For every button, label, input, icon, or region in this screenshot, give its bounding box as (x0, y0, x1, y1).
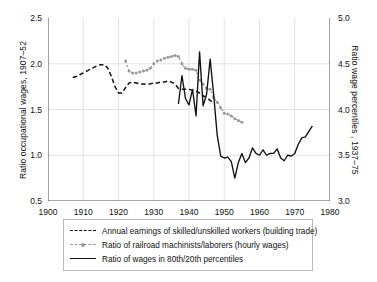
y-tick-right-4.5: 4.5 (338, 59, 362, 69)
series-marker (159, 59, 162, 62)
series-marker (156, 60, 159, 63)
series-marker (233, 117, 236, 120)
series-line-2 (178, 52, 312, 178)
y-tick-left-2.0: 2.0 (18, 59, 42, 69)
series-marker (191, 68, 194, 71)
y-tick-right-3.5: 3.5 (338, 150, 362, 160)
x-tick-1920: 1920 (104, 207, 134, 217)
y-tick-left-2.5: 2.5 (18, 13, 42, 23)
legend-label-2: Ratio of wages in 80th/20th percentiles (102, 255, 243, 264)
series-marker (131, 71, 134, 74)
series-marker (240, 121, 243, 124)
series-marker (209, 88, 212, 91)
series-marker (138, 70, 141, 73)
series-marker (135, 71, 138, 74)
series-marker (219, 106, 222, 109)
y-tick-right-4.0: 4.0 (338, 105, 362, 115)
y-tick-left-1.5: 1.5 (18, 105, 42, 115)
plot-area (48, 18, 330, 201)
legend-label-1: Ratio of railroad machinists/laborers (h… (102, 241, 289, 250)
y-tick-right-5.0: 5.0 (338, 13, 362, 23)
x-tick-1930: 1930 (139, 207, 169, 217)
series-marker (230, 114, 233, 117)
y-tick-right-3.0: 3.0 (338, 196, 362, 206)
x-tick-1970: 1970 (280, 207, 310, 217)
series-marker (128, 70, 131, 73)
series-marker (170, 55, 173, 58)
legend-item-0[interactable]: Annual earnings of skilled/unskilled wor… (70, 224, 306, 238)
series-marker (173, 54, 176, 57)
x-tick-1910: 1910 (68, 207, 98, 217)
series-marker (237, 119, 240, 122)
x-tick-1960: 1960 (245, 207, 275, 217)
series-marker (152, 62, 155, 65)
series-marker (216, 101, 219, 104)
x-tick-1980: 1980 (315, 207, 345, 217)
series-marker (145, 69, 148, 72)
series-marker (149, 67, 152, 70)
series-marker (180, 62, 183, 65)
series-marker (223, 112, 226, 115)
series-marker (195, 69, 198, 72)
y-tick-left-0.5: 0.5 (18, 196, 42, 206)
y-tick-left-1.0: 1.0 (18, 150, 42, 160)
chart-figure: Ratio occupational wages, 1907–52 Ratio … (0, 0, 377, 282)
series-marker (188, 68, 191, 71)
x-tick-1950: 1950 (209, 207, 239, 217)
series-marker (226, 113, 229, 116)
legend-item-1[interactable]: Ratio of railroad machinists/laborers (h… (70, 238, 306, 252)
series-marker (177, 55, 180, 58)
legend-label-0: Annual earnings of skilled/unskilled wor… (102, 227, 317, 236)
chart-legend: Annual earnings of skilled/unskilled wor… (63, 219, 313, 271)
chart-svg (48, 18, 330, 201)
series-marker (166, 56, 169, 59)
legend-key-solid-icon (70, 254, 96, 264)
series-marker (142, 70, 145, 73)
series-marker (184, 67, 187, 70)
x-tick-1900: 1900 (33, 207, 63, 217)
legend-key-dashed-icon (70, 226, 96, 236)
series-marker (124, 60, 127, 63)
legend-item-2[interactable]: Ratio of wages in 80th/20th percentiles (70, 252, 306, 266)
x-tick-1940: 1940 (174, 207, 204, 217)
legend-key-dotted-marker-icon (70, 240, 96, 250)
series-marker (163, 57, 166, 60)
